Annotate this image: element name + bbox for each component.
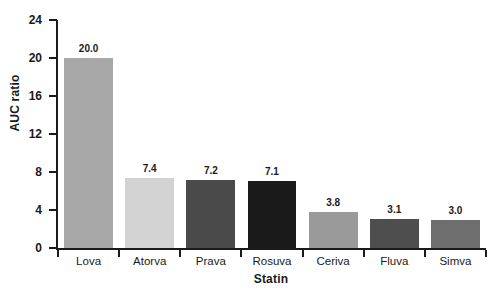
bar [248,181,297,248]
x-axis-category-label: Lova [58,256,119,268]
bar [431,220,480,249]
plot-area: 20.07.47.27.13.83.13.0 [58,20,486,248]
x-axis-category-label: Simva [425,256,486,268]
y-axis-tick [49,247,57,249]
bar-group: 20.0 [64,20,113,248]
bar-chart: AUC ratio 04812162024 20.07.47.27.13.83.… [0,0,493,299]
y-axis-tick-label: 8 [16,166,42,178]
bar-value-label: 7.4 [117,164,182,174]
y-axis-tick [49,209,57,211]
bar-group: 3.1 [370,20,419,248]
y-axis-tick-label: 12 [16,128,42,140]
bar-group: 7.1 [248,20,297,248]
y-axis-tick [49,19,57,21]
y-axis-tick [49,133,57,135]
bar-value-label: 3.1 [362,205,427,215]
x-axis-category-label: Ceriva [303,256,364,268]
y-axis-tick-label: 0 [16,242,42,254]
bar-group: 3.8 [309,20,358,248]
bar-value-label: 3.8 [301,198,366,208]
bar-value-label: 7.2 [178,166,243,176]
x-axis-category-label: Fluva [364,256,425,268]
x-axis-category-label: Rosuva [241,256,302,268]
y-axis-tick [49,171,57,173]
y-axis-tick-label: 24 [16,14,42,26]
bar-group: 7.4 [125,20,174,248]
bar [309,212,358,248]
x-axis-line [56,248,486,250]
y-axis-tick-label: 4 [16,204,42,216]
y-axis-tick [49,95,57,97]
x-axis-category-label: Atorva [119,256,180,268]
y-axis-tick [49,57,57,59]
bar-value-label: 7.1 [240,167,305,177]
bar-value-label: 3.0 [423,206,488,216]
x-axis-category-label: Prava [180,256,241,268]
y-axis-tick-label: 16 [16,90,42,102]
bar-group: 3.0 [431,20,480,248]
bar [64,58,113,248]
x-axis-title: Statin [56,272,486,286]
y-axis-tick-label: 20 [16,52,42,64]
bar-group: 7.2 [186,20,235,248]
bar [370,219,419,248]
bar-value-label: 20.0 [56,44,121,54]
bar [186,180,235,248]
bar [125,178,174,248]
